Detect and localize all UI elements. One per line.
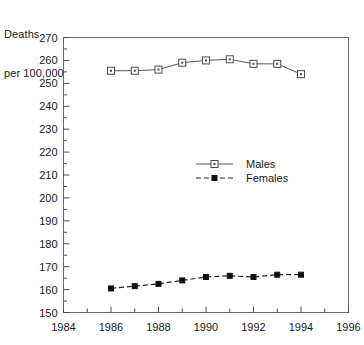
data-point-males xyxy=(155,66,162,73)
data-point-females xyxy=(180,278,185,283)
legend-label-females: Females xyxy=(246,172,289,184)
x-axis-ticks xyxy=(64,307,349,313)
data-point-males xyxy=(298,71,305,78)
data-point-females xyxy=(156,281,161,286)
y-tick-label: 180 xyxy=(39,238,57,250)
legend-marker-females xyxy=(212,176,217,181)
x-tick-label: 1994 xyxy=(289,321,313,333)
y-tick-label: 190 xyxy=(39,215,57,227)
legend-item-males: Males xyxy=(196,158,276,170)
data-point-males xyxy=(226,56,233,63)
chart-legend: MalesFemales xyxy=(196,158,289,184)
x-axis-tick-labels: 1984198619881990199219941996 xyxy=(51,321,360,333)
legend-item-females: Females xyxy=(196,172,289,184)
data-point-females xyxy=(275,272,280,277)
data-point-females xyxy=(204,274,209,279)
y-tick-label: 210 xyxy=(39,169,57,181)
data-point-females xyxy=(109,286,114,291)
y-tick-label: 170 xyxy=(39,261,57,273)
data-point-males xyxy=(131,67,138,74)
legend-marker-males xyxy=(211,161,218,168)
y-tick-label: 160 xyxy=(39,284,57,296)
x-tick-label: 1986 xyxy=(99,321,123,333)
data-point-males xyxy=(108,67,115,74)
legend-label-males: Males xyxy=(246,158,276,170)
data-point-males xyxy=(274,60,281,67)
chart-container: Deaths per 100,000 270260250240230220210… xyxy=(0,0,364,345)
y-tick-label: 150 xyxy=(39,307,57,319)
plot-frame xyxy=(64,38,349,313)
data-point-females xyxy=(132,284,137,289)
y-axis-ticks xyxy=(64,38,70,313)
x-tick-label: 1988 xyxy=(146,321,170,333)
x-tick-label: 1992 xyxy=(241,321,265,333)
data-point-females xyxy=(227,273,232,278)
y-tick-label: 220 xyxy=(39,146,57,158)
y-tick-label: 230 xyxy=(39,123,57,135)
x-tick-label: 1984 xyxy=(51,321,75,333)
x-tick-label: 1996 xyxy=(336,321,360,333)
data-point-males xyxy=(250,60,257,67)
data-point-females xyxy=(251,274,256,279)
data-point-females xyxy=(299,272,304,277)
data-point-males xyxy=(179,59,186,66)
y-axis-title: Deaths per 100,000 xyxy=(4,2,64,106)
y-tick-label: 200 xyxy=(39,192,57,204)
y-axis-title-line-1: Deaths xyxy=(4,28,64,41)
data-point-males xyxy=(203,57,210,64)
y-axis-title-line-2: per 100,000 xyxy=(4,67,64,80)
x-tick-label: 1990 xyxy=(194,321,218,333)
